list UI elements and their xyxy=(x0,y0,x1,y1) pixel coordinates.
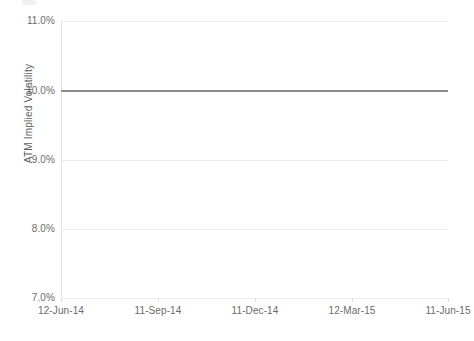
gridline-9pct xyxy=(61,160,448,161)
y-tick-label: 7.0% xyxy=(3,293,55,303)
x-tick-label: 11-Dec-14 xyxy=(210,305,300,316)
gridline-7pct xyxy=(61,298,448,299)
series-line-atm-implied-volatility xyxy=(61,90,448,92)
chart-container: ATM Implied Volatility 11.0% 10.0% 9.0% … xyxy=(0,0,474,341)
scan-artifact xyxy=(22,0,36,5)
x-tick-label: 12-Jun-14 xyxy=(16,305,106,316)
y-tick-label: 8.0% xyxy=(3,224,55,234)
gridline-11pct xyxy=(61,21,448,22)
y-tick-label: 9.0% xyxy=(3,155,55,165)
x-tick-label: 12-Mar-15 xyxy=(307,305,397,316)
y-tick-label: 10.0% xyxy=(3,86,55,96)
y-axis-title: ATM Implied Volatility xyxy=(23,34,34,194)
x-tick-label: 11-Jun-15 xyxy=(403,305,474,316)
x-axis-tick xyxy=(448,298,449,302)
y-tick-label: 11.0% xyxy=(3,16,55,26)
plot-area xyxy=(61,21,448,298)
x-tick-label: 11-Sep-14 xyxy=(113,305,203,316)
gridline-8pct xyxy=(61,229,448,230)
